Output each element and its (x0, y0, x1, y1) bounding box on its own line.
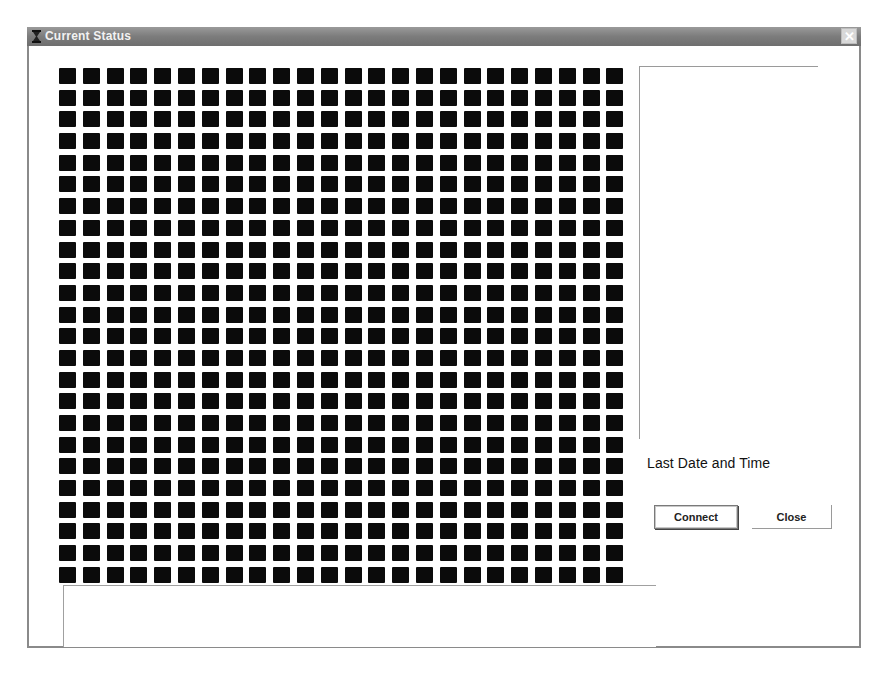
status-cell[interactable] (154, 328, 171, 344)
status-cell[interactable] (368, 523, 385, 539)
status-cell[interactable] (154, 198, 171, 214)
status-cell[interactable] (345, 567, 362, 583)
status-cell[interactable] (83, 350, 100, 366)
status-cell[interactable] (511, 198, 528, 214)
status-cell[interactable] (368, 458, 385, 474)
status-cell[interactable] (83, 68, 100, 84)
status-cell[interactable] (130, 502, 147, 518)
status-cell[interactable] (321, 372, 338, 388)
status-cell[interactable] (559, 242, 576, 258)
status-cell[interactable] (273, 437, 290, 453)
status-cell[interactable] (487, 523, 504, 539)
status-cell[interactable] (59, 328, 76, 344)
status-cell[interactable] (464, 111, 481, 127)
status-cell[interactable] (368, 220, 385, 236)
status-cell[interactable] (154, 415, 171, 431)
status-cell[interactable] (535, 68, 552, 84)
status-cell[interactable] (273, 372, 290, 388)
status-cell[interactable] (202, 263, 219, 279)
status-cell[interactable] (368, 90, 385, 106)
status-cell[interactable] (392, 155, 409, 171)
status-cell[interactable] (249, 393, 266, 409)
status-cell[interactable] (511, 415, 528, 431)
status-cell[interactable] (226, 437, 243, 453)
status-cell[interactable] (559, 545, 576, 561)
status-cell[interactable] (583, 372, 600, 388)
status-cell[interactable] (440, 307, 457, 323)
status-cell[interactable] (226, 220, 243, 236)
status-cell[interactable] (416, 567, 433, 583)
status-cell[interactable] (606, 350, 623, 366)
status-cell[interactable] (83, 155, 100, 171)
status-cell[interactable] (535, 242, 552, 258)
status-cell[interactable] (249, 372, 266, 388)
status-cell[interactable] (297, 198, 314, 214)
status-cell[interactable] (511, 350, 528, 366)
status-cell[interactable] (368, 111, 385, 127)
status-cell[interactable] (273, 415, 290, 431)
status-cell[interactable] (511, 545, 528, 561)
status-cell[interactable] (297, 111, 314, 127)
status-cell[interactable] (154, 523, 171, 539)
status-cell[interactable] (321, 285, 338, 301)
status-cell[interactable] (59, 90, 76, 106)
status-cell[interactable] (416, 220, 433, 236)
status-cell[interactable] (368, 133, 385, 149)
status-cell[interactable] (606, 480, 623, 496)
status-cell[interactable] (440, 458, 457, 474)
status-cell[interactable] (464, 328, 481, 344)
status-cell[interactable] (440, 155, 457, 171)
status-cell[interactable] (297, 220, 314, 236)
status-cell[interactable] (392, 458, 409, 474)
status-cell[interactable] (440, 350, 457, 366)
status-cell[interactable] (83, 437, 100, 453)
status-cell[interactable] (464, 480, 481, 496)
status-cell[interactable] (345, 458, 362, 474)
status-cell[interactable] (297, 502, 314, 518)
status-cell[interactable] (345, 350, 362, 366)
status-cell[interactable] (107, 415, 124, 431)
status-cell[interactable] (154, 285, 171, 301)
status-cell[interactable] (202, 372, 219, 388)
status-cell[interactable] (440, 372, 457, 388)
status-cell[interactable] (511, 220, 528, 236)
status-cell[interactable] (606, 220, 623, 236)
status-cell[interactable] (583, 437, 600, 453)
status-cell[interactable] (249, 90, 266, 106)
status-cell[interactable] (297, 285, 314, 301)
status-cell[interactable] (107, 545, 124, 561)
status-cell[interactable] (273, 567, 290, 583)
status-cell[interactable] (178, 133, 195, 149)
status-cell[interactable] (297, 68, 314, 84)
status-cell[interactable] (321, 68, 338, 84)
status-cell[interactable] (297, 480, 314, 496)
status-cell[interactable] (59, 437, 76, 453)
status-cell[interactable] (368, 328, 385, 344)
status-cell[interactable] (416, 176, 433, 192)
status-cell[interactable] (345, 133, 362, 149)
status-cell[interactable] (464, 90, 481, 106)
status-cell[interactable] (83, 263, 100, 279)
status-cell[interactable] (535, 502, 552, 518)
status-cell[interactable] (535, 523, 552, 539)
status-cell[interactable] (202, 328, 219, 344)
status-cell[interactable] (202, 502, 219, 518)
status-cell[interactable] (83, 480, 100, 496)
status-cell[interactable] (583, 285, 600, 301)
status-cell[interactable] (154, 111, 171, 127)
status-cell[interactable] (606, 328, 623, 344)
status-cell[interactable] (535, 90, 552, 106)
status-cell[interactable] (273, 68, 290, 84)
status-cell[interactable] (368, 350, 385, 366)
status-cell[interactable] (202, 285, 219, 301)
status-cell[interactable] (392, 437, 409, 453)
status-cell[interactable] (321, 545, 338, 561)
status-cell[interactable] (202, 523, 219, 539)
status-cell[interactable] (178, 176, 195, 192)
status-cell[interactable] (583, 90, 600, 106)
status-cell[interactable] (559, 437, 576, 453)
status-cell[interactable] (511, 393, 528, 409)
status-cell[interactable] (249, 415, 266, 431)
status-cell[interactable] (297, 90, 314, 106)
status-cell[interactable] (226, 111, 243, 127)
